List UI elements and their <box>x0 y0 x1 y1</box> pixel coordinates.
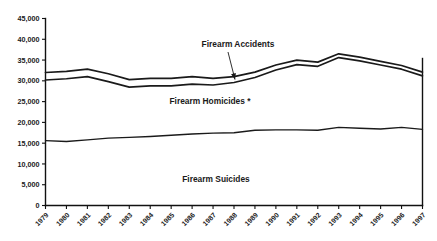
x-tick-label: 1997 <box>411 211 427 227</box>
y-axis-tick-labels: 45,00040,00035,00030,00025,00020,00015,0… <box>18 14 40 210</box>
x-tick-label: 1992 <box>306 211 322 227</box>
y-tick-label: 5,000 <box>22 180 40 189</box>
x-tick-label: 1981 <box>76 211 92 227</box>
y-tick-label: 15,000 <box>18 139 40 148</box>
y-tick-label: 0 <box>36 201 40 210</box>
y-tick-label: 35,000 <box>18 56 40 65</box>
firearm-accidents-leader-line <box>228 52 236 80</box>
x-tick-label: 1983 <box>118 211 134 227</box>
series-label-firearm-accidents: Firearm Accidents <box>202 39 275 49</box>
x-tick-label: 1989 <box>243 211 259 227</box>
chart-page: 45,00040,00035,00030,00025,00020,00015,0… <box>0 0 437 241</box>
x-tick-label: 1984 <box>138 211 154 227</box>
x-tick-label: 1982 <box>97 211 113 227</box>
x-tick-label: 1979 <box>34 211 50 227</box>
x-tick-label: 1986 <box>180 211 196 227</box>
y-tick-label: 30,000 <box>18 76 40 85</box>
x-tick-label: 1990 <box>264 211 280 227</box>
y-tick-label: 10,000 <box>18 160 40 169</box>
series-label-firearm-homicides: Firearm Homicides * <box>170 96 252 106</box>
x-tick-label: 1988 <box>222 211 238 227</box>
series-line-firearm-suicides <box>46 127 423 141</box>
y-tick-label: 20,000 <box>18 118 40 127</box>
x-tick-label: 1980 <box>55 211 71 227</box>
x-tick-label: 1991 <box>285 211 301 227</box>
series-label-firearm-suicides: Firearm Suicides <box>182 174 250 184</box>
firearm-deaths-chart: 45,00040,00035,00030,00025,00020,00015,0… <box>0 0 437 241</box>
x-tick-label: 1995 <box>369 211 385 227</box>
x-axis-tick-labels: 1979198019811982198319841985198619871988… <box>34 211 427 227</box>
x-tick-label: 1985 <box>159 211 175 227</box>
x-tick-label: 1993 <box>327 211 343 227</box>
x-tick-label: 1987 <box>201 211 217 227</box>
y-tick-label: 40,000 <box>18 35 40 44</box>
y-tick-label: 25,000 <box>18 97 40 106</box>
x-tick-label: 1996 <box>390 211 406 227</box>
x-tick-label: 1994 <box>348 211 364 227</box>
y-tick-label: 45,000 <box>18 14 40 23</box>
